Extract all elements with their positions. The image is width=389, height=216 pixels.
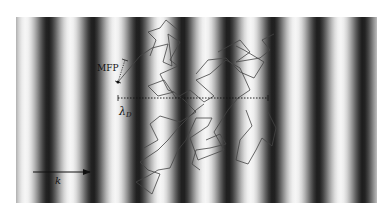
k-label: k xyxy=(55,175,61,186)
diagram-figure: MFP λD k xyxy=(0,0,389,216)
mfp-label: MFP xyxy=(97,63,119,73)
